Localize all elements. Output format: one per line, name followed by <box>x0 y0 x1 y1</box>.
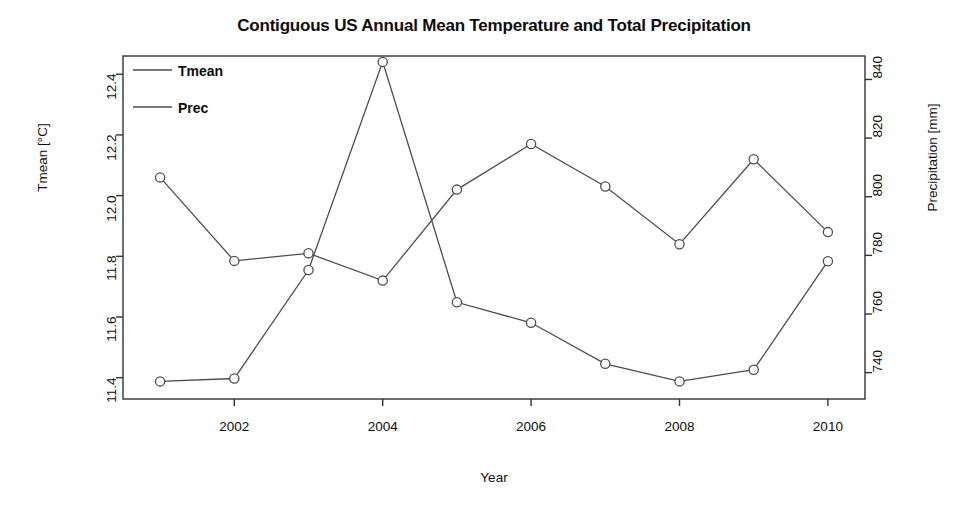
axis-ticks <box>116 74 872 406</box>
data-point-marker <box>378 57 387 66</box>
legend-line-swatches <box>133 70 172 107</box>
data-point-marker <box>601 359 610 368</box>
data-point-marker <box>823 257 832 266</box>
data-point-marker <box>156 377 165 386</box>
series-tmean <box>156 139 833 285</box>
plot-frame <box>123 56 865 399</box>
data-point-marker <box>527 139 536 148</box>
data-point-marker <box>378 276 387 285</box>
chart-canvas: Contiguous US Annual Mean Temperature an… <box>0 0 975 516</box>
data-point-marker <box>452 298 461 307</box>
data-point-marker <box>304 249 313 258</box>
data-point-marker <box>675 377 684 386</box>
plot-area <box>0 0 975 516</box>
data-point-marker <box>823 228 832 237</box>
data-point-marker <box>601 182 610 191</box>
data-point-marker <box>675 240 684 249</box>
data-point-marker <box>230 256 239 265</box>
data-point-marker <box>749 155 758 164</box>
data-point-marker <box>230 374 239 383</box>
data-point-marker <box>749 365 758 374</box>
data-point-marker <box>156 173 165 182</box>
data-point-marker <box>304 265 313 274</box>
data-point-marker <box>527 318 536 327</box>
data-series-layer <box>156 57 833 386</box>
data-point-marker <box>452 185 461 194</box>
series-prec <box>156 57 833 386</box>
